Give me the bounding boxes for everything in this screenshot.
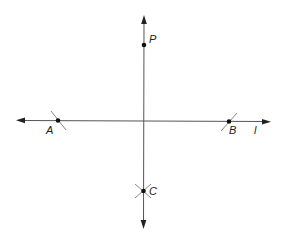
label-p: P xyxy=(149,34,156,45)
label-b: B xyxy=(229,125,236,136)
arrow-up-icon xyxy=(141,15,147,24)
label-a: A xyxy=(46,125,53,136)
arrow-right-icon xyxy=(262,119,271,125)
point-p xyxy=(142,43,147,48)
label-line-l: l xyxy=(254,125,256,136)
arrow-left-icon xyxy=(16,118,25,124)
arrow-down-icon xyxy=(141,220,147,229)
point-a xyxy=(56,118,61,123)
label-c: C xyxy=(149,186,157,197)
point-c xyxy=(141,189,146,194)
construction-diagram xyxy=(0,0,285,240)
